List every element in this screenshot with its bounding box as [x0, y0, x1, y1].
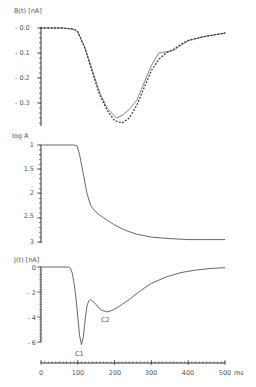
bot-minor-ticks	[37, 267, 41, 342]
c1-annotation: C1	[75, 350, 84, 358]
j-current-line	[41, 267, 225, 345]
computed-dotted-line	[41, 28, 225, 123]
panel-b-current: B(t) [nA] - 0.0 - 0.1 - 0.2 - 0.3	[14, 7, 225, 126]
top-tick-2: - 0.2	[15, 74, 30, 82]
top-tick-1: - 0.1	[15, 49, 30, 57]
x-tick-300: 300	[145, 369, 157, 377]
mid-minor-ticks	[37, 145, 41, 242]
bot-tick-1: - 2	[27, 289, 36, 297]
mid-tick-3: 2.5	[24, 212, 34, 220]
x-tick-500: 500	[219, 369, 231, 377]
x-tick-0: 0	[39, 369, 43, 377]
mid-y-axis-label: log A	[12, 132, 29, 140]
x-tick-200: 200	[109, 369, 121, 377]
bot-tick-0: 0	[32, 264, 36, 272]
panel-j-current: J(t) [nA] 0 - 2 - 4 - 6 C1 C2 0 100 200 …	[13, 256, 244, 377]
mid-tick-0: 1	[30, 141, 34, 149]
bot-tick-2: - 4	[27, 314, 36, 322]
c2-annotation: C2	[101, 316, 110, 324]
top-tick-3: - 0.3	[15, 99, 30, 107]
mid-tick-4: 3	[30, 238, 34, 246]
mid-tick-1: 1.5	[24, 165, 34, 173]
top-y-axis-label: B(t) [nA]	[14, 7, 42, 15]
top-tick-0: - 0.0	[15, 24, 30, 32]
log-a-line	[41, 145, 225, 240]
figure: B(t) [nA] - 0.0 - 0.1 - 0.2 - 0.3 log A …	[0, 0, 256, 387]
x-tick-100: 100	[72, 369, 84, 377]
mid-tick-2: 2	[30, 189, 34, 197]
panel-log-a: log A 1 1.5 2 2.5 3	[12, 132, 225, 246]
x-tick-400: 400	[182, 369, 194, 377]
bot-tick-3: - 6	[27, 339, 36, 347]
x-unit-label: ms	[234, 369, 244, 377]
top-minor-ticks	[37, 28, 41, 123]
bot-y-axis-label: J(t) [nA]	[13, 256, 39, 264]
measured-line	[41, 28, 225, 118]
